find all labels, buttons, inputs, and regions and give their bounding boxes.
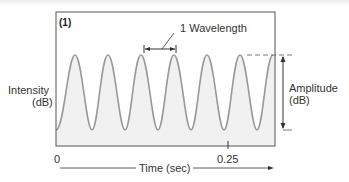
panel-label: (1) [59,17,71,28]
x-tick-025: 0.25 [217,153,238,165]
amplitude-unit-label: (dB) [289,94,310,106]
wavelength-label: 1 Wavelength [180,22,247,34]
y-axis-label: Intensity [8,84,49,96]
x-axis-label: Time (sec) [139,162,191,174]
y-axis-unit-label: (dB) [32,96,53,108]
x-tick-0: 0 [54,153,60,165]
wave-fill [56,55,275,146]
amplitude-label: Amplitude [289,82,338,94]
